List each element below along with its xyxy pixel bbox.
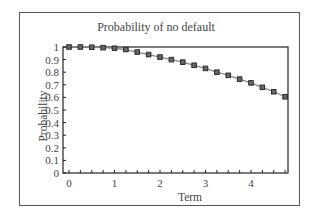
data-point-marker — [124, 47, 129, 52]
y-tick-label: 0 — [54, 167, 60, 179]
x-tick-label: 2 — [157, 177, 163, 189]
data-point-marker — [249, 81, 254, 86]
data-point-marker — [215, 70, 220, 75]
data-point-marker — [146, 52, 151, 57]
data-point-marker — [158, 55, 163, 60]
data-point-marker — [67, 45, 72, 50]
x-tick-label: 0 — [66, 177, 72, 189]
y-tick-label: 0.2 — [45, 142, 59, 154]
y-tick-label: 1 — [54, 41, 60, 53]
data-line — [69, 47, 285, 97]
data-point-marker — [180, 60, 185, 65]
data-point-marker — [89, 45, 94, 50]
data-point-marker — [112, 46, 117, 51]
y-tick-label: 0.4 — [45, 117, 59, 129]
data-point-marker — [135, 50, 140, 55]
y-tick-label: 0.7 — [45, 79, 59, 91]
x-tick-label: 1 — [112, 177, 118, 189]
data-point-marker — [260, 85, 265, 90]
y-tick-label: 0.5 — [45, 104, 59, 116]
y-tick-label: 0.8 — [45, 66, 59, 78]
plot-box — [63, 47, 288, 173]
y-tick-label: 0.1 — [45, 154, 59, 166]
x-tick-label: 3 — [203, 177, 209, 189]
y-tick-label: 0.3 — [45, 129, 59, 141]
data-point-marker — [192, 63, 197, 68]
y-tick-label: 0.9 — [45, 54, 59, 66]
data-point-marker — [169, 57, 174, 62]
data-point-marker — [237, 77, 242, 82]
x-tick-label: 4 — [248, 177, 254, 189]
data-point-marker — [101, 45, 106, 50]
data-point-marker — [78, 45, 83, 50]
data-point-marker — [226, 73, 231, 78]
plot-area: 00.10.20.30.40.50.60.70.80.9101234 — [0, 0, 312, 221]
data-point-marker — [271, 89, 276, 94]
y-tick-label: 0.6 — [45, 91, 59, 103]
data-point-marker — [203, 66, 208, 71]
data-point-marker — [283, 94, 288, 99]
